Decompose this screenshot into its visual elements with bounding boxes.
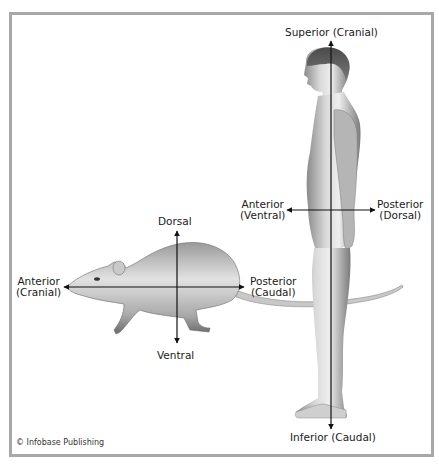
human-figure <box>295 47 360 418</box>
human-axes <box>287 41 375 429</box>
label-human-posterior-line2: (Dorsal) <box>377 210 423 221</box>
label-rat-anterior: Anterior (Cranial) <box>16 276 61 298</box>
label-rat-anterior-line2: (Cranial) <box>16 287 61 298</box>
label-rat-dorsal: Dorsal <box>158 216 192 227</box>
label-human-inferior: Inferior (Caudal) <box>290 432 376 443</box>
label-rat-ventral: Ventral <box>157 350 194 361</box>
label-human-superior: Superior (Cranial) <box>285 27 378 38</box>
label-human-posterior: Posterior (Dorsal) <box>377 199 423 221</box>
anatomy-illustration <box>0 0 439 466</box>
label-rat-posterior: Posterior (Caudal) <box>250 276 296 298</box>
label-human-anterior-line2: (Ventral) <box>240 210 285 221</box>
label-rat-posterior-line2: (Caudal) <box>250 287 296 298</box>
label-human-anterior: Anterior (Ventral) <box>240 199 285 221</box>
copyright-notice: © Infobase Publishing <box>16 438 104 447</box>
rat-figure <box>68 243 240 334</box>
